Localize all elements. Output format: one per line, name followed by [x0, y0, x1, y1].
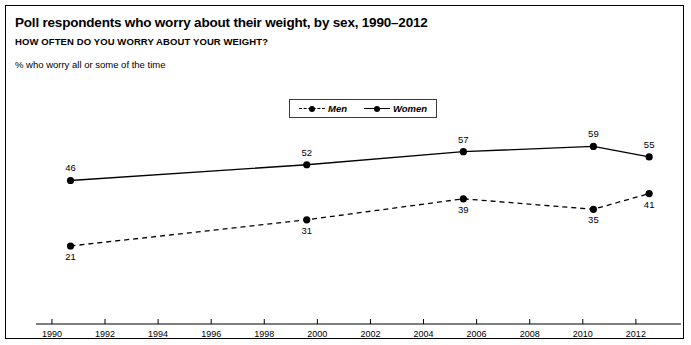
data-point-men [646, 190, 653, 197]
data-point-men [67, 242, 74, 249]
data-label-men: 21 [65, 251, 76, 262]
data-label-women: 46 [65, 162, 76, 173]
chart-figure: Poll respondents who worry about their w… [5, 5, 684, 339]
data-point-men [303, 216, 310, 223]
data-point-men [460, 195, 467, 202]
data-label-women: 55 [644, 139, 655, 150]
x-tick-label: 1994 [148, 329, 168, 339]
legend-label-men: Men [328, 103, 347, 114]
data-point-women [460, 148, 467, 155]
data-label-men: 39 [458, 204, 469, 215]
x-tick-label: 1990 [42, 329, 62, 339]
x-tick-label: 2000 [307, 329, 327, 339]
x-tick-label: 2004 [414, 329, 434, 339]
data-label-men: 31 [301, 225, 312, 236]
data-point-men [590, 206, 597, 213]
line-chart-plot [6, 6, 685, 340]
legend-line-solid-icon [364, 104, 390, 113]
data-label-men: 35 [588, 214, 599, 225]
legend-item-women[interactable]: Women [364, 103, 427, 114]
x-tick-label: 2010 [573, 329, 593, 339]
data-label-women: 57 [458, 134, 469, 145]
data-label-women: 59 [588, 128, 599, 139]
data-label-women: 52 [301, 147, 312, 158]
x-tick-label: 1996 [201, 329, 221, 339]
x-tick-label: 1998 [254, 329, 274, 339]
legend-line-dashed-icon [299, 104, 325, 113]
legend-item-men[interactable]: Men [299, 103, 347, 114]
x-tick-label: 2008 [520, 329, 540, 339]
data-point-women [303, 161, 310, 168]
data-point-women [590, 143, 597, 150]
x-tick-label: 2012 [626, 329, 646, 339]
chart-legend: Men Women [289, 99, 437, 118]
x-tick-label: 2006 [467, 329, 487, 339]
data-label-men: 41 [644, 199, 655, 210]
series-line-women [71, 146, 650, 180]
x-tick-label: 2002 [360, 329, 380, 339]
data-point-women [67, 177, 74, 184]
series-line-men [71, 194, 650, 246]
data-point-women [646, 153, 653, 160]
x-tick-label: 1992 [95, 329, 115, 339]
legend-label-women: Women [393, 103, 427, 114]
